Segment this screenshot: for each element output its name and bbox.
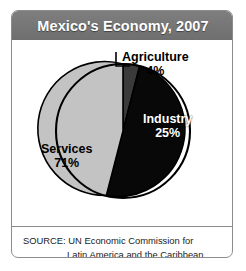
figure-frame: Mexico's Economy, 2007 Agriculture 4% In… xyxy=(11,10,233,258)
pie-slice-services xyxy=(38,61,123,195)
label-services-name: Services xyxy=(41,142,92,156)
label-agriculture: Agriculture 4% xyxy=(122,50,189,78)
chart-title: Mexico's Economy, 2007 xyxy=(37,18,208,34)
source-divider xyxy=(12,226,233,227)
label-agriculture-name: Agriculture xyxy=(122,50,189,64)
source-line-2: Latin America and the Caribbean xyxy=(20,248,226,258)
label-services: Services 71% xyxy=(41,142,92,170)
source-line-1: SOURCE: UN Economic Commission for xyxy=(20,234,226,248)
label-industry-name: Industry xyxy=(143,112,192,126)
pie-chart-plot-area: Agriculture 4% Industry 25% Services 71% xyxy=(12,40,233,226)
label-industry-value: 25% xyxy=(143,126,192,140)
source-note: SOURCE: UN Economic Commission for Latin… xyxy=(12,230,233,258)
label-industry: Industry 25% xyxy=(143,112,192,140)
chart-title-bar: Mexico's Economy, 2007 xyxy=(12,11,233,40)
label-services-value: 71% xyxy=(41,156,92,170)
label-agriculture-value: 4% xyxy=(122,64,189,78)
